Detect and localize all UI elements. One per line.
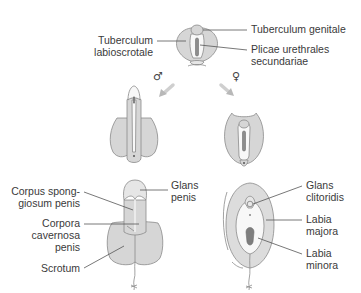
label-glans-penis-1: Glans — [171, 179, 198, 191]
arrow-to-male-icon — [159, 85, 173, 97]
label-labia-minora-1: Labia — [306, 247, 332, 259]
label-scrotum: Scrotum — [41, 262, 80, 274]
label-corpora-cavernosa-1: Corpora — [42, 217, 80, 229]
label-glans-clitoridis-1: Glans — [306, 179, 333, 191]
label-plicae-1: Plicae urethrales — [251, 43, 329, 55]
label-tuberculum-labioscrotale-2: labioscrotale — [94, 46, 153, 58]
label-tuberculum-labioscrotale-1: Tuberculum — [98, 34, 153, 46]
label-labia-majora-1: Labia — [306, 213, 332, 225]
label-labia-majora-2: majora — [306, 225, 338, 237]
label-glans-penis-2: penis — [171, 191, 196, 203]
label-tuberculum-genitale: Tuberculum genitale — [251, 23, 346, 35]
arrow-to-female-icon — [221, 85, 234, 96]
label-plicae-2: secundariae — [251, 55, 308, 67]
indifferent-stage-illustration — [177, 25, 218, 66]
female-symbol: ♀ — [232, 70, 240, 83]
label-corpus-spongiosum-1: Corpus spong- — [11, 185, 80, 197]
label-labia-minora-2: minora — [306, 259, 338, 271]
female-intermediate-illustration — [225, 113, 264, 166]
label-corpora-cavernosa-3: penis — [55, 241, 80, 253]
label-corpus-spongiosum-2: giosum penis — [18, 197, 80, 209]
male-symbol: ♂ — [153, 70, 163, 83]
male-final-illustration — [107, 180, 163, 290]
label-corpora-cavernosa-2: cavernosa — [32, 229, 81, 241]
label-glans-clitoridis-2: clitoridis — [306, 191, 344, 203]
male-intermediate-illustration — [110, 86, 158, 163]
genital-development-diagram: Tuberculum genitale Tuberculum labioscro… — [0, 0, 361, 293]
